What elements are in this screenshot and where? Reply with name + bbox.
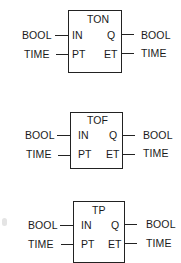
tp-et-type: TIME xyxy=(146,238,171,249)
tp-pt-type: TIME xyxy=(28,239,53,250)
tp-pin-et: ET xyxy=(108,239,122,250)
tp-title: TP xyxy=(92,205,106,216)
tp-pin-in: IN xyxy=(81,220,92,231)
tp-pt-wire xyxy=(61,244,73,245)
tp-q-type: BOOL xyxy=(146,219,176,230)
tp-pin-pt: PT xyxy=(81,239,95,250)
scan-artifact xyxy=(2,218,7,226)
tp-et-wire xyxy=(125,243,137,244)
tp-in-wire xyxy=(60,225,73,226)
tp-pin-q: Q xyxy=(111,220,119,231)
tp-in-type: BOOL xyxy=(28,220,58,231)
tp-q-wire xyxy=(125,224,137,225)
